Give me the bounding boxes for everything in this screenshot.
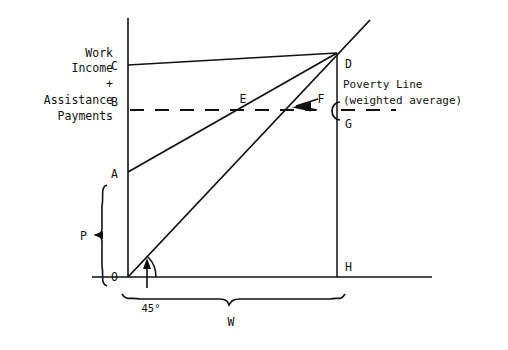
poverty-line-caption-1: Poverty Line [343,78,422,91]
poverty-line-arrowhead-icon [292,102,311,112]
point-label-g: G [345,117,352,131]
top-boundary-cd [128,53,337,65]
vertical-brace-arrowhead-icon [94,231,103,239]
point-label-a: A [111,167,118,181]
brace-label-p: P [80,229,87,243]
axis-caption-line-4: Assistance [44,93,113,107]
angle-label-45-degrees: 45° [142,302,161,314]
axis-caption-line-2: Income [71,61,113,75]
poverty-line-diagram: C B A O E F D G H P W 45° Work Income + … [0,0,508,350]
poverty-line-caption-2: (weighted average) [343,94,462,107]
point-label-f: F [318,92,325,106]
point-label-h: H [345,260,352,274]
point-label-d: D [345,57,352,71]
axis-caption-line-5: Payments [58,109,113,123]
poverty-line-arc-marker-icon [332,102,340,120]
point-label-e: E [240,92,247,106]
brace-label-w: W [228,315,235,329]
point-label-o: O [111,270,118,284]
axis-caption-line-1: Work [85,46,113,60]
series-assistance-line-ad [128,53,337,172]
axis-caption-line-3: + [106,77,113,91]
